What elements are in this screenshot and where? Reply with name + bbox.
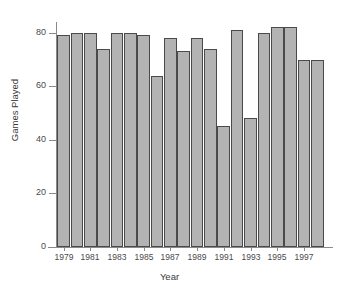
bar-1994 xyxy=(258,33,271,247)
bar-1998 xyxy=(311,60,324,248)
bar-chart-figure: Games Played 020406080 19791981198319851… xyxy=(0,0,339,288)
y-tick-0 xyxy=(49,247,56,248)
x-tick-1995 xyxy=(277,247,278,251)
bar-1997 xyxy=(298,60,311,248)
x-tick-1991 xyxy=(224,247,225,251)
x-tick-1989 xyxy=(197,247,198,251)
bar-1985 xyxy=(137,35,150,247)
bar-1980 xyxy=(71,33,84,247)
y-tick-label-80: 80 xyxy=(6,28,46,37)
bar-1981 xyxy=(84,33,97,247)
bar-1987 xyxy=(164,38,177,247)
bar-1996 xyxy=(284,27,297,247)
x-axis-title: Year xyxy=(0,272,339,282)
y-tick-40 xyxy=(49,140,56,141)
bar-1992 xyxy=(231,30,244,247)
x-tick-1983 xyxy=(117,247,118,251)
bar-1995 xyxy=(271,27,284,247)
y-tick-60 xyxy=(49,86,56,87)
x-tick-1997 xyxy=(304,247,305,251)
bar-1984 xyxy=(124,33,137,247)
bar-1990 xyxy=(204,49,217,247)
bar-1991 xyxy=(217,126,230,247)
x-tick-1985 xyxy=(144,247,145,251)
x-tick-1987 xyxy=(170,247,171,251)
bar-1979 xyxy=(57,35,70,247)
y-tick-label-0: 0 xyxy=(6,242,46,251)
y-tick-80 xyxy=(49,33,56,34)
bar-1982 xyxy=(97,49,110,247)
x-tick-label-1997: 1997 xyxy=(287,253,321,262)
bar-1986 xyxy=(151,76,164,247)
y-tick-20 xyxy=(49,193,56,194)
plot-area xyxy=(57,22,324,247)
bar-series xyxy=(57,22,324,247)
x-tick-1993 xyxy=(251,247,252,251)
bar-1988 xyxy=(177,51,190,247)
bar-1993 xyxy=(244,118,257,247)
x-tick-1979 xyxy=(64,247,65,251)
y-tick-label-60: 60 xyxy=(6,81,46,90)
x-tick-1981 xyxy=(90,247,91,251)
y-tick-label-40: 40 xyxy=(6,135,46,144)
y-tick-label-20: 20 xyxy=(6,188,46,197)
bar-1989 xyxy=(191,38,204,247)
bar-1983 xyxy=(111,33,124,247)
